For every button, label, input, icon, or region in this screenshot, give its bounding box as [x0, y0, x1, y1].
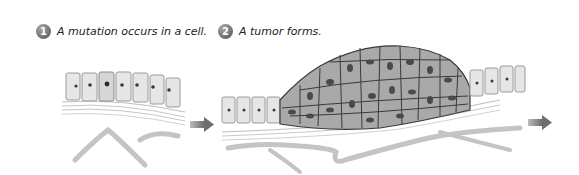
- normal-tissue-panel: [62, 72, 185, 165]
- arrow-step2-to-next: [528, 115, 552, 130]
- arrow-step1-to-step2: [190, 117, 214, 132]
- normal-cell-row: [470, 66, 525, 96]
- diagram-canvas: [0, 0, 579, 175]
- tumor-panel: [222, 46, 525, 172]
- normal-cell-row: [222, 97, 280, 123]
- tumor-mass: [280, 46, 470, 130]
- normal-cell-row: [66, 72, 180, 107]
